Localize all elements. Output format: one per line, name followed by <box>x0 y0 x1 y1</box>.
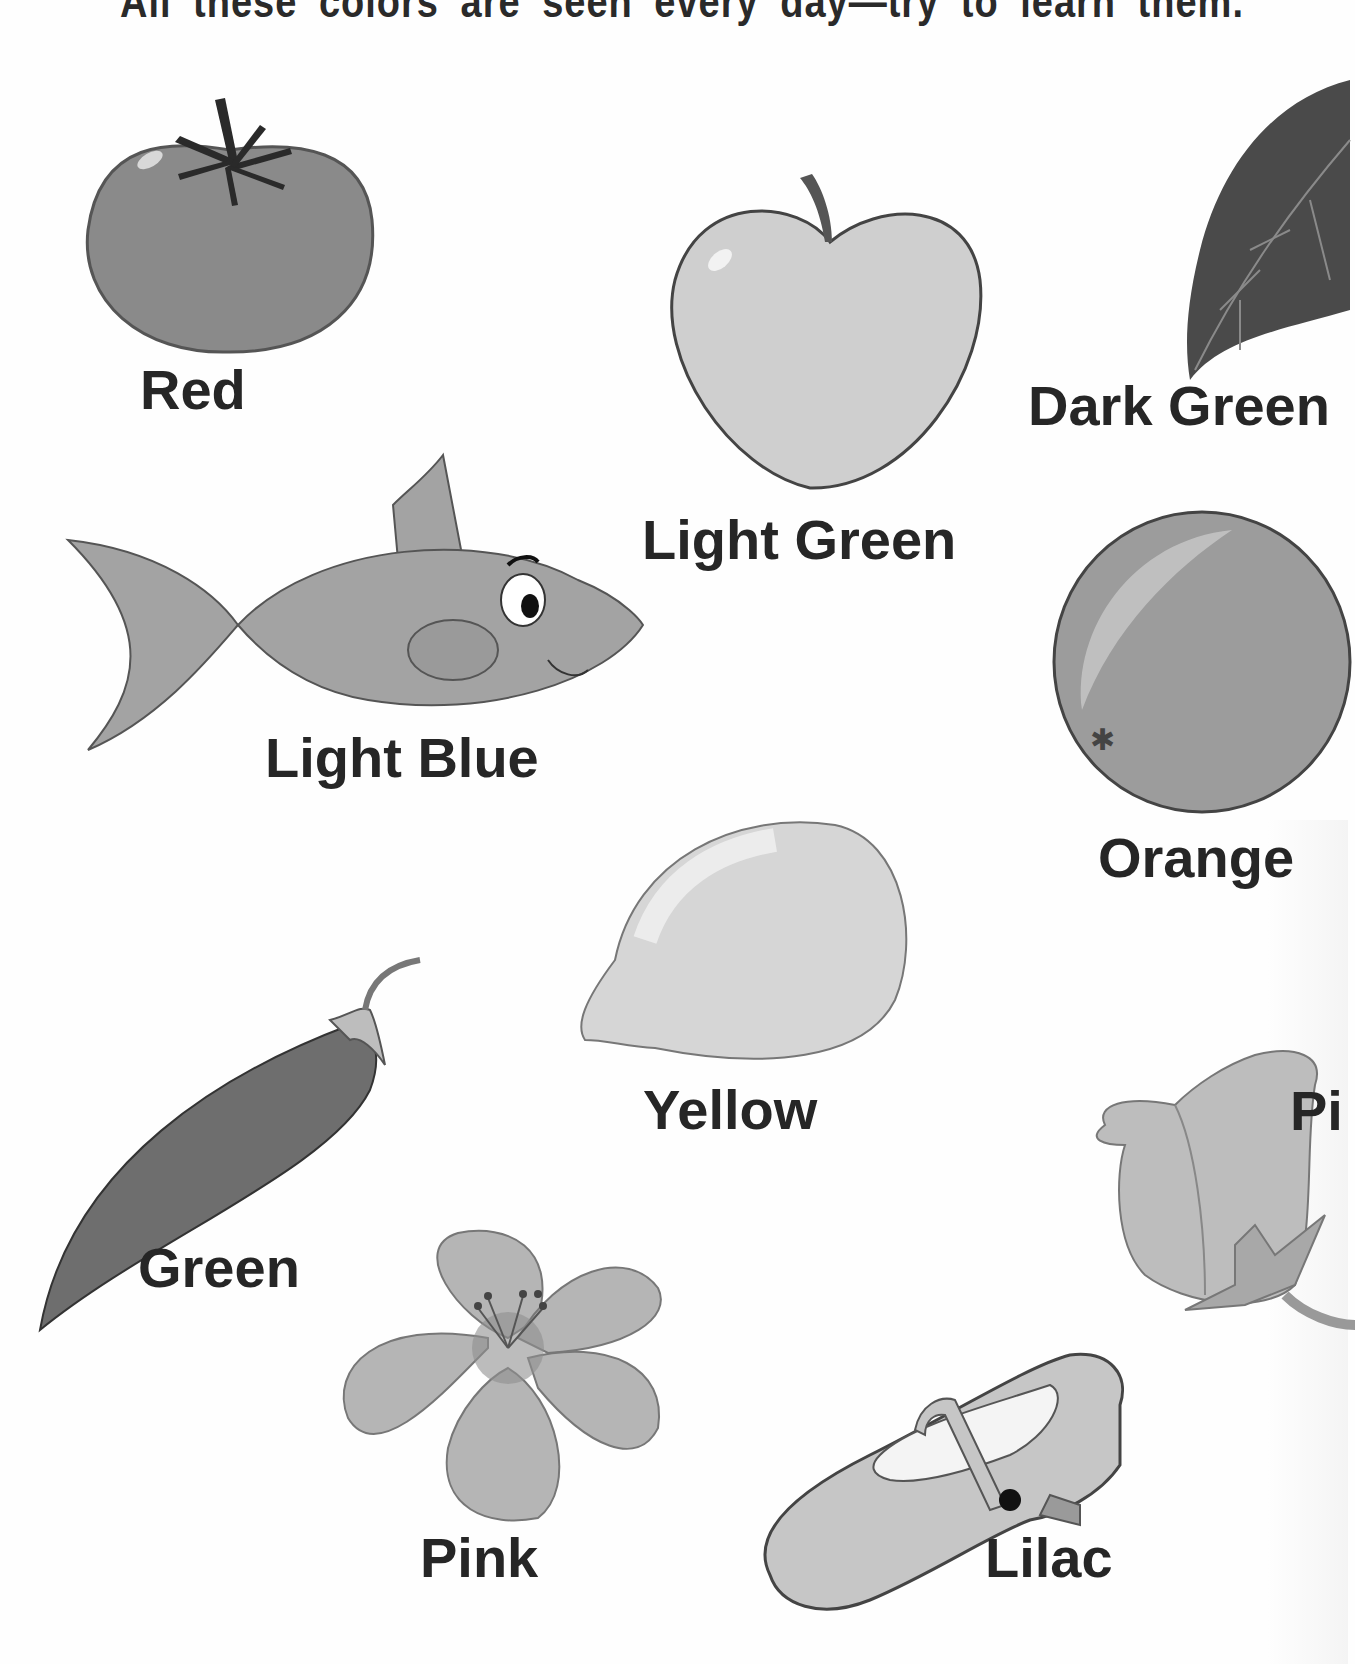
label-light-green: Light Green <box>642 512 956 568</box>
label-green: Green <box>138 1240 300 1296</box>
apple-illustration <box>660 170 990 490</box>
label-orange: Orange <box>1098 830 1294 886</box>
label-lilac: Lilac <box>985 1530 1113 1586</box>
label-pink-truncated: Pi <box>1290 1083 1343 1139</box>
label-pink: Pink <box>420 1530 538 1586</box>
svg-text:✱: ✱ <box>1090 722 1115 757</box>
rose-bud-illustration <box>1065 1025 1355 1345</box>
tomato-illustration <box>80 90 380 360</box>
page-header: All these colors are seen every day—try … <box>120 0 1320 27</box>
flower-illustration <box>338 1228 668 1528</box>
label-yellow: Yellow <box>643 1082 817 1138</box>
label-dark-green: Dark Green <box>1028 378 1330 434</box>
label-light-blue: Light Blue <box>265 730 539 786</box>
orange-illustration: ✱ <box>1052 510 1352 820</box>
lemon-illustration <box>575 800 915 1070</box>
label-red: Red <box>140 362 246 418</box>
fish-illustration <box>68 450 648 760</box>
leaf-illustration <box>1180 80 1350 380</box>
